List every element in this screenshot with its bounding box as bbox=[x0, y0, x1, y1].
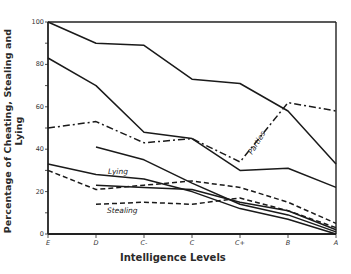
x-tick-label: B bbox=[286, 239, 291, 247]
x-tick-label: A bbox=[333, 239, 338, 247]
series-lines bbox=[48, 22, 336, 234]
y-tick-label: 40 bbox=[36, 145, 44, 153]
series-line bbox=[48, 58, 336, 187]
series-line bbox=[48, 170, 336, 223]
x-tick-label: C- bbox=[141, 239, 149, 247]
parties-label: Parties bbox=[246, 129, 267, 156]
y-tick-label: 60 bbox=[36, 103, 44, 111]
y-tick-label: 100 bbox=[32, 18, 44, 26]
series-line bbox=[48, 164, 336, 234]
series-line bbox=[48, 103, 336, 162]
x-axis-label: Intelligence Levels bbox=[120, 252, 226, 263]
x-tick-label: D bbox=[93, 239, 98, 247]
y-tick-label: 0 bbox=[40, 230, 44, 238]
lying-label: Lying bbox=[108, 167, 128, 176]
series-line bbox=[48, 22, 336, 164]
y-tick-label: 80 bbox=[36, 60, 44, 68]
series-line bbox=[96, 147, 336, 232]
stealing-label: Stealing bbox=[107, 206, 138, 215]
x-tick-label: C bbox=[190, 239, 195, 247]
x-tick-label: E bbox=[46, 239, 51, 247]
y-tick-label: 20 bbox=[36, 188, 44, 196]
line-chart: 020406080100EDC-CC+BA Lying Stealing Par… bbox=[0, 0, 351, 274]
y-axis-label: Percentage of Cheating, Stealing and Lyi… bbox=[2, 26, 24, 236]
x-tick-label: C+ bbox=[235, 239, 245, 247]
